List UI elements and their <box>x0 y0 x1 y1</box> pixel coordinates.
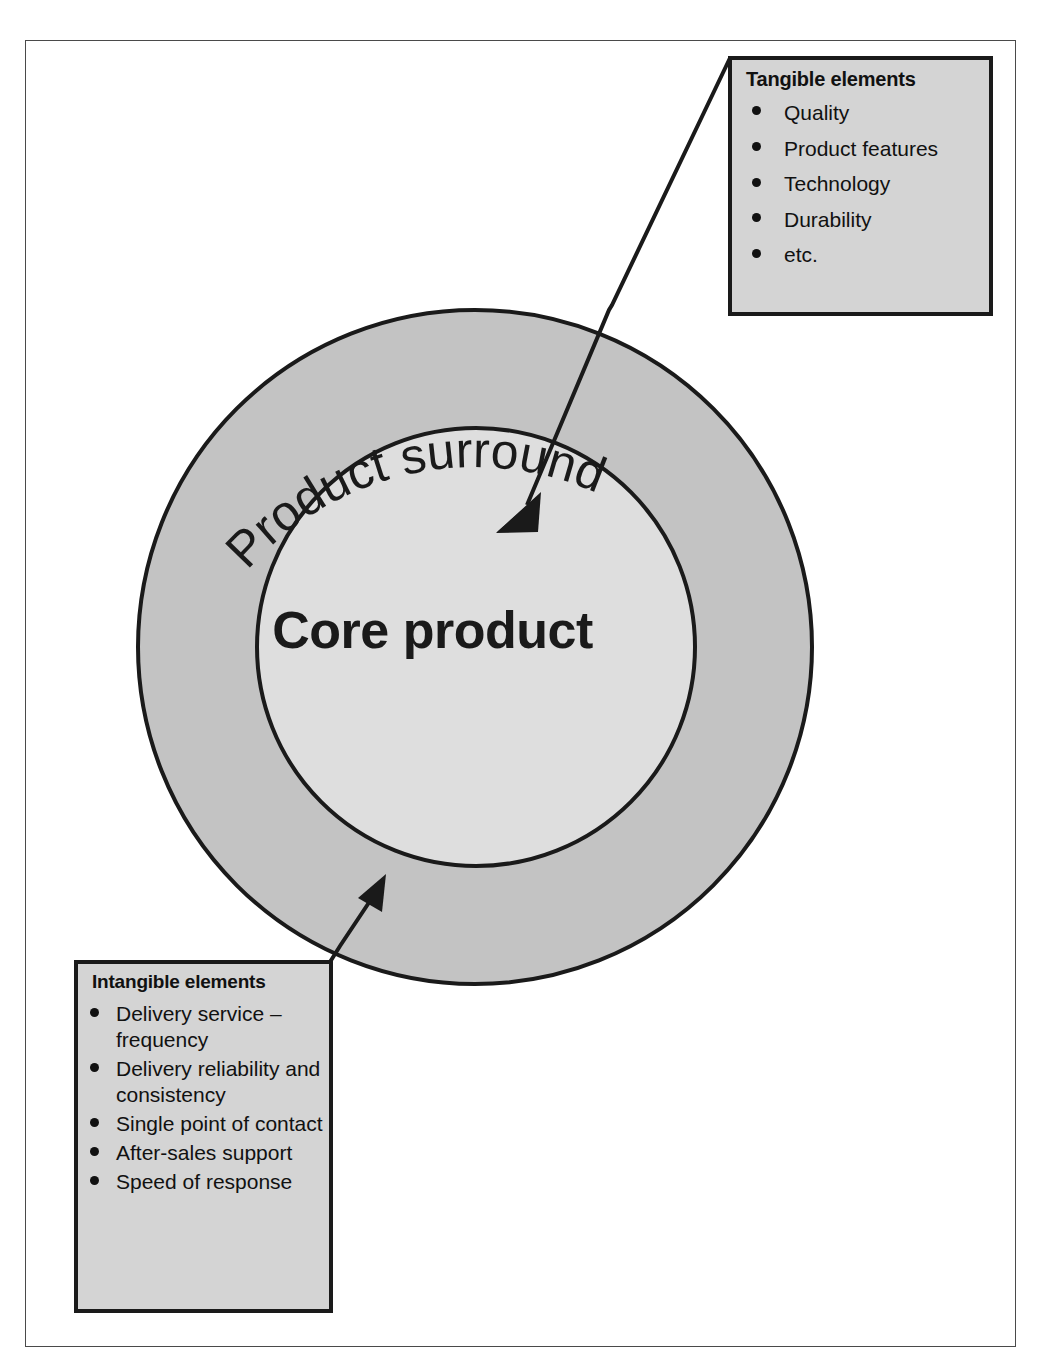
list-item: Speed of response <box>88 1169 323 1195</box>
bullet-icon <box>90 1147 99 1156</box>
bullet-icon <box>90 1118 99 1127</box>
bullet-icon <box>90 1008 99 1017</box>
list-item: etc. <box>748 242 983 268</box>
tangible-elements-box: Tangible elements Quality Product featur… <box>728 56 993 316</box>
list-item: Single point of contact <box>88 1111 323 1137</box>
list-item: Quality <box>748 100 983 126</box>
tangible-box-title: Tangible elements <box>732 60 989 100</box>
list-item: Product features <box>748 136 983 162</box>
intangible-box-title: Intangible elements <box>78 964 329 1001</box>
bullet-icon <box>752 106 761 115</box>
list-item: Delivery service – frequency <box>88 1001 323 1053</box>
list-item-label: Durability <box>784 208 872 231</box>
list-item-label: Product features <box>784 137 938 160</box>
list-item-label: Technology <box>784 172 890 195</box>
list-item-label: Quality <box>784 101 849 124</box>
diagram-page: Product surround Core product Tangible e… <box>0 0 1039 1364</box>
bullet-icon <box>752 142 761 151</box>
list-item-label: etc. <box>784 243 818 266</box>
intangible-elements-box: Intangible elements Delivery service – f… <box>74 960 333 1313</box>
list-item-label: Speed of response <box>116 1170 292 1193</box>
list-item-label: Delivery service – frequency <box>116 1002 282 1051</box>
list-item-label: After-sales support <box>116 1141 292 1164</box>
core-product-label: Core product <box>0 600 952 660</box>
tangible-items-list: Quality Product features Technology Dura… <box>732 100 989 284</box>
bullet-icon <box>752 249 761 258</box>
list-item-label: Single point of contact <box>116 1112 323 1135</box>
list-item: After-sales support <box>88 1140 323 1166</box>
list-item: Technology <box>748 171 983 197</box>
bullet-icon <box>752 178 761 187</box>
bullet-icon <box>90 1176 99 1185</box>
list-item-label: Delivery reliability and consistency <box>116 1057 320 1106</box>
list-item: Delivery reliability and consistency <box>88 1056 323 1108</box>
intangible-items-list: Delivery service – frequency Delivery re… <box>78 1001 329 1204</box>
bullet-icon <box>90 1063 99 1072</box>
bullet-icon <box>752 213 761 222</box>
list-item: Durability <box>748 207 983 233</box>
